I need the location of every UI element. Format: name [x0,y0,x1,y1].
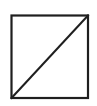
square-with-diagonal-diagram [0,0,97,106]
figure-canvas: Square with one diagonal A square outlin… [0,0,97,106]
